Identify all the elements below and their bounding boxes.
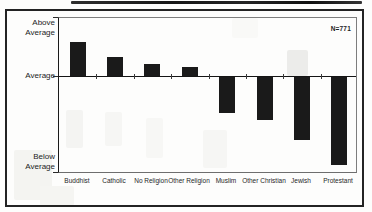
sample-size-label: N=771 (331, 25, 351, 32)
baseline-tick (96, 74, 97, 79)
figure-canvas: N=771 Above Average Average Below Averag… (0, 0, 372, 212)
baseline-tick (321, 74, 322, 79)
bar-no-religion (144, 64, 160, 76)
axis-label-below-average: Below Average (8, 152, 55, 172)
bar-protestant (331, 77, 347, 165)
baseline-tick (283, 74, 284, 79)
baseline-tick (209, 74, 210, 79)
bar-muslim (219, 77, 235, 113)
average-baseline (59, 76, 356, 77)
baseline-tick (246, 74, 247, 79)
y-axis-tick-below (53, 172, 58, 173)
bar-catholic (107, 57, 123, 76)
bar-other-christian (257, 77, 273, 120)
axis-label-above-average: Above Average (8, 18, 55, 38)
bar-jewish (294, 77, 310, 140)
bar-other-religion (182, 67, 198, 76)
cropped-title-text-remnant (71, 1, 362, 4)
baseline-tick (171, 74, 172, 79)
bar-buddhist (70, 42, 86, 76)
axis-label-average: Average (8, 71, 55, 81)
plot-area: N=771 (58, 17, 357, 173)
baseline-tick (134, 74, 135, 79)
category-label-protestant: Protestant (316, 177, 360, 185)
